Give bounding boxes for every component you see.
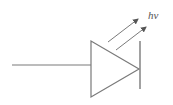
photon-energy-label: hν [148,10,158,21]
emission-arrow-icon [116,27,146,50]
emission-arrow-icon [108,19,138,42]
diode-triangle [91,41,139,97]
